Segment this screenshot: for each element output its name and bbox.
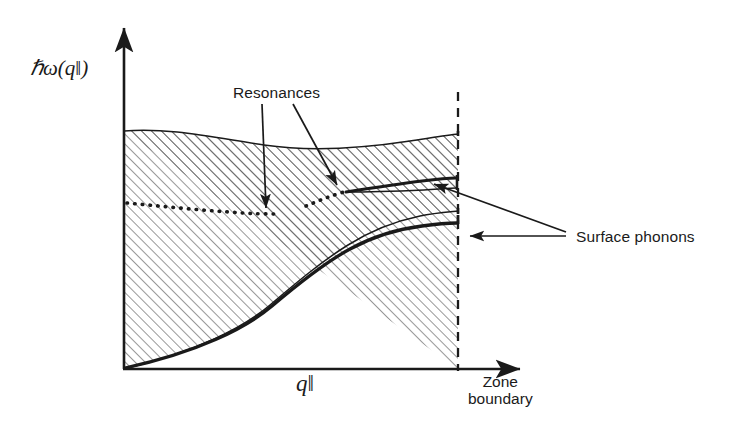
- y-axis-label-text: ℏω(q‖): [30, 56, 88, 80]
- zone-boundary-annotation: Zone boundary: [468, 373, 533, 408]
- y-axis-label: ℏω(q‖): [30, 57, 88, 81]
- x-axis-label-text: q‖: [296, 371, 314, 396]
- zone-boundary-line2: boundary: [468, 390, 533, 407]
- figure-canvas: ℏω(q‖) q‖ Resonances Zone boundary Surfa…: [0, 0, 742, 447]
- zone-boundary-line1: Zone: [468, 373, 533, 390]
- dispersion-diagram: [0, 0, 742, 447]
- surface-phonons-annotation: Surface phonons: [576, 228, 695, 245]
- resonances-annotation-text: Resonances: [233, 84, 320, 101]
- surface-phonons-annotation-text: Surface phonons: [576, 228, 695, 245]
- x-axis-label: q‖: [296, 371, 314, 397]
- resonances-annotation: Resonances: [233, 84, 320, 101]
